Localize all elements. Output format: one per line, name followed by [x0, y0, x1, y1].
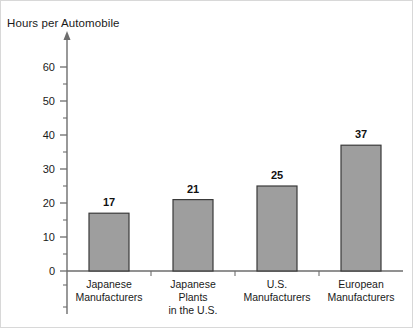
chart-figure: Hours per Automobile 0102030405060 17212… — [0, 0, 413, 328]
category-label-line: Manufacturers — [327, 291, 394, 303]
y-axis-tick-label: 50 — [43, 95, 55, 107]
y-axis-arrow-icon — [64, 31, 71, 40]
y-axis-tick-label: 60 — [43, 61, 55, 73]
bar-value-label: 37 — [355, 128, 367, 140]
bar-chart-plot: 0102030405060 17212537 JapaneseManufactu… — [1, 1, 413, 328]
bar-value-label: 25 — [271, 169, 283, 181]
category-label-line: Japanese — [86, 278, 132, 290]
bar — [257, 186, 297, 271]
category-label-line: in the U.S. — [168, 304, 217, 316]
category-label-line: Plants — [178, 291, 207, 303]
y-axis-tick-label: 20 — [43, 197, 55, 209]
y-axis-tick-label: 30 — [43, 163, 55, 175]
bar — [341, 145, 381, 271]
y-axis-tick-label: 40 — [43, 129, 55, 141]
y-axis-tick-label: 0 — [49, 265, 55, 277]
category-label-line: Manufacturers — [243, 291, 310, 303]
y-axis-tick-label: 10 — [43, 231, 55, 243]
bars-group — [89, 145, 381, 271]
category-labels-group: JapaneseManufacturersJapanesePlantsin th… — [75, 278, 394, 316]
value-labels-group: 17212537 — [103, 128, 367, 208]
category-label-line: Japanese — [170, 278, 216, 290]
bar-value-label: 21 — [187, 183, 199, 195]
category-label-line: Manufacturers — [75, 291, 142, 303]
bar-value-label: 17 — [103, 196, 115, 208]
bar — [173, 200, 213, 271]
category-label-line: European — [338, 278, 384, 290]
bar — [89, 213, 129, 271]
category-label-line: U.S. — [267, 278, 287, 290]
